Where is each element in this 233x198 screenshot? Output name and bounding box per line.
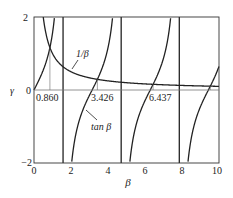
tan-beta-branch-1 bbox=[34, 18, 54, 90]
tan-beta-label: tan β bbox=[91, 121, 111, 132]
x-tick-8: 8 bbox=[180, 165, 185, 176]
y-axis-label: γ bbox=[10, 85, 15, 96]
tan-beta-branch-4 bbox=[188, 67, 219, 162]
inv-beta-label: 1/β bbox=[76, 48, 89, 59]
y-tick-2: 2 bbox=[23, 12, 28, 23]
y-tick-minus2: −2 bbox=[21, 157, 32, 168]
y-tick-0: 0 bbox=[26, 85, 31, 96]
x-axis-label: β bbox=[124, 176, 131, 188]
root-label-3: 6.437 bbox=[149, 92, 172, 103]
x-tick-10: 10 bbox=[212, 165, 222, 176]
inv-beta-arrow bbox=[72, 60, 78, 69]
chart: 2 0 γ −2 0 2 4 6 8 10 β 0.860 3.426 6.43… bbox=[0, 0, 233, 198]
x-tick-2: 2 bbox=[69, 165, 74, 176]
root-label-1: 0.860 bbox=[36, 92, 59, 103]
root-label-2: 3.426 bbox=[91, 92, 114, 103]
x-tick-6: 6 bbox=[143, 165, 148, 176]
tan-beta-arrow bbox=[86, 110, 97, 120]
x-tick-0: 0 bbox=[32, 165, 37, 176]
inv-beta-curve bbox=[43, 17, 219, 86]
x-tick-4: 4 bbox=[106, 165, 111, 176]
